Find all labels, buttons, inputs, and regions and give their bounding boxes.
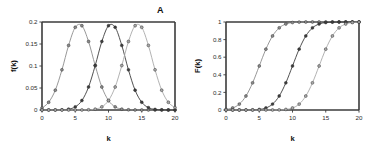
panel-b-datapoint xyxy=(238,109,241,112)
panel-a-y-tick-label: 0.2 xyxy=(29,18,38,25)
panel-a-series-f1 xyxy=(41,24,177,111)
panel-a-datapoint xyxy=(61,68,64,71)
panel-a-datapoint xyxy=(87,86,90,89)
panel-b-datapoint xyxy=(271,103,274,106)
panel-b-y-tick-label: 1 xyxy=(218,18,222,25)
panel-b-datapoint xyxy=(251,81,254,84)
panel-b-datapoint xyxy=(344,23,347,26)
panel-b-datapoint xyxy=(298,103,301,106)
panel-a-datapoint xyxy=(47,109,50,112)
panel-b-datapoint xyxy=(284,23,287,26)
panel-b-x-tick-label: 5 xyxy=(258,114,262,121)
panel-a-datapoint xyxy=(167,109,170,112)
panel-b-x-ticks: 05101520 xyxy=(224,110,363,121)
panel-a-curve-f2 xyxy=(42,24,175,110)
panel-a-datapoint xyxy=(154,68,157,71)
panel-b-datapoint xyxy=(331,21,334,24)
panel-b-datapoint xyxy=(258,109,261,112)
panel-a-curve-f3 xyxy=(42,24,175,110)
panel-a-series-f3 xyxy=(41,24,177,111)
panel-b-datapoint xyxy=(311,26,314,29)
panel-b-x-axis-title: k xyxy=(290,134,295,143)
panel-a-datapoint xyxy=(134,24,137,27)
panel-b-datapoint xyxy=(298,48,301,51)
panel-a-y-ticks: 00.050.10.150.2 xyxy=(25,18,42,113)
panel-a-datapoint xyxy=(94,64,97,67)
panel-a-datapoint xyxy=(147,44,150,47)
panel-a-x-ticks: 05101520 xyxy=(40,110,179,121)
panel-a-datapoint xyxy=(87,40,90,43)
panel-a-datapoint xyxy=(160,89,163,92)
panel-a-datapoint xyxy=(47,101,50,104)
panel-a-x-tick-label: 5 xyxy=(74,114,78,121)
panel-b-datapoint xyxy=(318,23,321,26)
panel-a-x-tick-label: 10 xyxy=(105,114,112,121)
panel-b-datapoint xyxy=(324,48,327,51)
panel-b-datapoint xyxy=(264,109,267,112)
panel-a-datapoint xyxy=(140,101,143,104)
panel-b-datapoint xyxy=(291,65,294,68)
panel-b-datapoint xyxy=(251,109,254,112)
panel-a: 00.050.10.150.205101520kf(k) A xyxy=(0,0,184,154)
panel-b-datapoint xyxy=(358,21,361,24)
panel-a-datapoint xyxy=(87,108,90,111)
panel-a-datapoint xyxy=(114,26,117,29)
panel-b-datapoint xyxy=(291,107,294,110)
panel-a-datapoint xyxy=(127,68,130,71)
panel-b-datapoint xyxy=(245,95,248,98)
panel-b-datapoint xyxy=(284,108,287,111)
panel-b-datapoint xyxy=(331,35,334,38)
panel-a-datapoint xyxy=(94,108,97,111)
panel-b-x-tick-label: 10 xyxy=(289,114,296,121)
plot-b-canvas: 00.20.40.60.8105101520kF(k) xyxy=(184,0,368,154)
panel-b-datapoint xyxy=(278,108,281,111)
panel-a-datapoint xyxy=(61,109,64,112)
panel-a-datapoint xyxy=(154,108,157,111)
panel-a-label: A xyxy=(157,5,164,15)
panel-b-datapoint xyxy=(271,35,274,38)
panel-b-datapoint xyxy=(278,26,281,29)
panel-b-y-tick-label: 0.4 xyxy=(213,71,222,78)
panel-a-datapoint xyxy=(114,86,117,89)
panel-b-datapoint xyxy=(291,21,294,24)
panel-a-datapoint xyxy=(80,99,83,102)
panel-a-datapoint xyxy=(74,105,77,108)
panel-b-datapoint xyxy=(225,109,228,112)
panel-a-datapoint xyxy=(167,101,170,104)
panel-a-datapoint xyxy=(80,24,83,27)
panel-a-y-tick-label: 0 xyxy=(34,106,38,113)
panel-b-datapoint xyxy=(298,21,301,24)
panel-b-datapoint xyxy=(231,109,234,112)
panel-b-y-tick-label: 0 xyxy=(218,106,222,113)
panel-b-y-tick-label: 0.8 xyxy=(213,36,222,43)
panel-a-datapoint xyxy=(107,24,110,27)
panel-a-datapoint xyxy=(54,109,57,112)
panel-b-datapoint xyxy=(311,21,314,24)
panel-a-series-f2 xyxy=(41,24,177,111)
panel-a-datapoint xyxy=(134,89,137,92)
panel-b-y-tick-label: 0.2 xyxy=(213,89,222,96)
panel-a-datapoint xyxy=(100,105,103,108)
panel-b-datapoint xyxy=(338,21,341,24)
panel-b-datapoint xyxy=(304,21,307,24)
panel-a-x-tick-label: 15 xyxy=(138,114,145,121)
panel-b-x-tick-label: 15 xyxy=(322,114,329,121)
panel-b-datapoint xyxy=(304,95,307,98)
panel-a-datapoint xyxy=(140,26,143,29)
panel-b-datapoint xyxy=(311,81,314,84)
panel-a-x-tick-label: 0 xyxy=(40,114,44,121)
panel-a-datapoint xyxy=(127,40,130,43)
panel-a-datapoint xyxy=(134,109,137,112)
panel-a-datapoint xyxy=(54,89,57,92)
panel-b: 00.20.40.60.8105101520kF(k) B xyxy=(184,0,368,154)
panel-a-datapoint xyxy=(140,109,143,112)
panel-a-datapoint xyxy=(120,108,123,111)
panel-a-datapoint xyxy=(67,44,70,47)
panel-a-x-tick-label: 20 xyxy=(172,114,179,121)
panel-b-datapoint xyxy=(338,26,341,29)
panel-a-datapoint xyxy=(160,108,163,111)
panel-a-axes xyxy=(42,22,175,110)
panel-b-x-tick-label: 0 xyxy=(224,114,228,121)
panel-a-y-tick-label: 0.15 xyxy=(25,40,38,47)
panel-a-datapoint xyxy=(41,109,44,112)
